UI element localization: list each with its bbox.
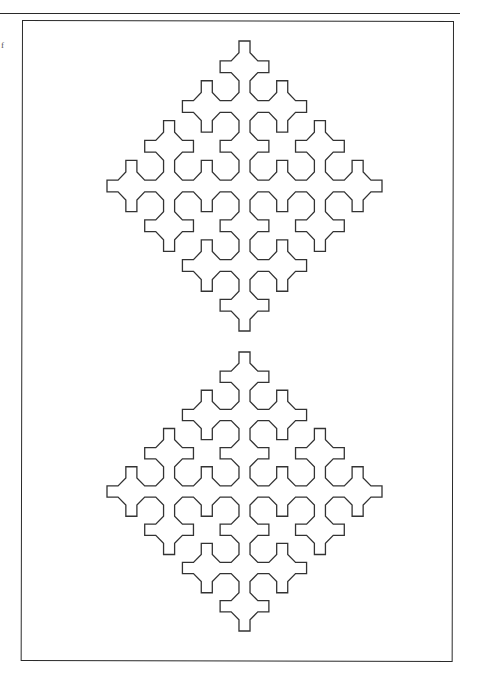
lower-sierpinski-curve <box>107 352 382 631</box>
sierpinski-curve-figure <box>0 0 479 685</box>
upper-sierpinski-curve <box>107 41 382 331</box>
